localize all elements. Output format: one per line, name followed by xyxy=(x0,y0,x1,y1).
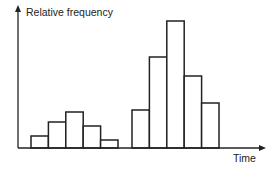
y-axis-label: Relative frequency xyxy=(26,6,114,18)
bar xyxy=(48,122,65,148)
bar xyxy=(31,136,48,148)
bars-group xyxy=(31,21,219,148)
bar xyxy=(202,103,219,148)
bar xyxy=(132,110,149,148)
x-axis-arrow-icon xyxy=(259,145,266,151)
bar xyxy=(66,112,83,148)
bar xyxy=(184,76,201,148)
bar xyxy=(83,126,100,148)
x-axis-label: Time xyxy=(233,152,256,164)
bar xyxy=(101,140,118,148)
histogram-chart: Relative frequency Time xyxy=(0,0,276,172)
bar xyxy=(149,57,166,148)
bar xyxy=(167,21,184,148)
y-axis-arrow-icon xyxy=(15,5,21,12)
